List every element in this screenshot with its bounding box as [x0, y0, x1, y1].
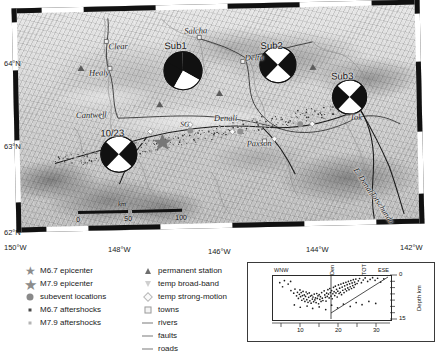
aftershock-point: [69, 166, 71, 168]
inset-data-point: [347, 287, 349, 289]
aftershock-point: [89, 158, 90, 159]
inset-data-point: [377, 277, 379, 279]
inset-data-point: [345, 281, 347, 283]
aftershock-point: [218, 133, 219, 134]
star-icon: ★: [22, 277, 38, 290]
inset-cross-section: WNW ESE Den TOT 0 15 Depth km 10 20 30: [247, 262, 435, 342]
map-frame: Clear Salcha Healy Cantwell Delta Paxson…: [12, 0, 425, 232]
dot-icon: [22, 316, 38, 329]
circle-icon: [22, 290, 38, 303]
aftershock-point: [213, 127, 214, 128]
aftershock-point: [59, 158, 61, 160]
inset-data-point: [279, 282, 281, 284]
inset-x-tick-30: 30: [373, 327, 380, 333]
aftershock-point: [183, 139, 184, 140]
legend-label: M6.7 epicenter: [40, 266, 93, 275]
inset-data-point: [290, 281, 292, 283]
legend-item-m79-epicenter: ★ M7.9 epicenter: [22, 277, 106, 290]
aftershock-point: [268, 119, 269, 120]
aftershock-point: [294, 112, 295, 113]
inset-data-point: [349, 286, 351, 288]
aftershock-point: [236, 127, 237, 128]
aftershock-point: [184, 134, 185, 135]
aftershock-point: [138, 143, 139, 144]
beachball-sub1: [164, 51, 203, 90]
aftershock-point: [324, 110, 325, 111]
aftershock-point: [87, 162, 88, 163]
aftershock-point: [320, 113, 321, 114]
inset-data-point: [351, 282, 353, 284]
aftershock-point: [83, 164, 84, 165]
aftershock-point: [223, 133, 224, 134]
diamond-icon: [140, 290, 156, 303]
inset-data-point: [362, 279, 364, 281]
aftershock-point: [69, 155, 70, 156]
aftershock-point: [321, 108, 322, 109]
aftershock-point: [219, 132, 220, 133]
aftershock-point: [142, 144, 144, 146]
inset-data-point: [307, 301, 309, 303]
aftershock-point: [86, 155, 87, 156]
scale-bar-unit: km: [118, 200, 126, 208]
aftershock-point: [207, 135, 208, 136]
legend-label: temp strong-motion: [158, 292, 227, 301]
aftershock-point: [298, 112, 299, 113]
aftershock-point: [287, 125, 288, 126]
inset-data-point: [307, 293, 309, 295]
line-icon: [140, 329, 156, 342]
aftershock-point: [139, 153, 141, 155]
inset-data-point: [312, 298, 314, 300]
inset-fault-lines: [331, 275, 388, 319]
inset-data-point: [312, 308, 314, 310]
aftershock-point: [93, 150, 94, 151]
aftershock-point: [146, 143, 147, 144]
aftershock-point: [214, 136, 215, 137]
beachball-sub2: [260, 46, 297, 83]
main-map: Clear Salcha Healy Cantwell Delta Paxson…: [0, 0, 438, 240]
aftershock-point: [263, 122, 264, 123]
aftershock-point: [66, 154, 67, 155]
legend-item-roads: roads: [140, 342, 227, 355]
aftershock-point: [260, 124, 261, 125]
inset-depth-tick-15: 15: [399, 315, 406, 321]
aftershock-point: [63, 158, 64, 159]
place-label-denali: Denali: [214, 114, 237, 123]
aftershock-point: [286, 124, 287, 125]
inset-data-point: [357, 280, 359, 282]
inset-data-point: [342, 289, 344, 291]
inset-data-point: [336, 296, 338, 298]
aftershock-point: [281, 123, 282, 124]
aftershock-point: [166, 135, 167, 136]
aftershock-point: [175, 147, 176, 148]
aftershock-point: [276, 124, 277, 125]
place-label-cantwell: Cantwell: [76, 110, 107, 119]
legend-label: temp broad-band: [158, 279, 219, 288]
inset-depth-ticks: [390, 275, 397, 319]
inset-data-point: [348, 281, 350, 283]
inset-data-point: [325, 309, 327, 311]
inset-x-tick-20: 20: [335, 327, 342, 333]
aftershock-point: [225, 131, 226, 132]
aftershock-point: [175, 136, 176, 137]
aftershock-point: [53, 167, 54, 168]
inset-data-point: [336, 289, 338, 291]
aftershock-point: [173, 139, 174, 140]
aftershock-point: [221, 136, 222, 137]
inset-data-point: [302, 295, 304, 297]
aftershock-point: [293, 121, 294, 122]
inset-data-point: [323, 290, 325, 292]
inset-data-point: [339, 291, 341, 293]
aftershock-point: [200, 134, 201, 135]
aftershock-point: [329, 107, 330, 108]
aftershock-point: [98, 160, 99, 161]
aftershock-point: [285, 117, 286, 118]
aftershock-point: [184, 144, 185, 145]
aftershock-point: [55, 158, 57, 160]
aftershock-point: [325, 114, 326, 115]
aftershock-point: [84, 156, 85, 157]
aftershock-point: [94, 160, 95, 161]
aftershock-point: [305, 119, 306, 120]
inset-data-point: [333, 286, 335, 288]
aftershock-point: [219, 130, 220, 131]
aftershock-point: [255, 118, 257, 120]
